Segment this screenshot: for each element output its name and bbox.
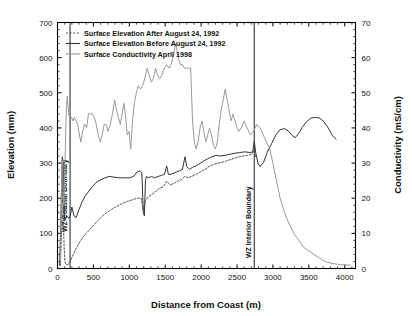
y-tick-label: 300 (39, 159, 53, 168)
y-tick-label: 0 (48, 265, 53, 274)
y-tick-label: 400 (39, 124, 53, 133)
y-tick-label: 500 (39, 89, 53, 98)
y-axis-left-title: Elevation (mm) (5, 111, 16, 179)
x-tick-label: 500 (87, 273, 101, 282)
y2-tick-label: 40 (362, 124, 371, 133)
y-axis-right-title: Conductivity (mS/cm) (392, 96, 403, 194)
x-tick-label: 4000 (336, 273, 354, 282)
x-tick-label: 1000 (120, 273, 138, 282)
y-tick-label: 200 (39, 194, 53, 203)
x-axis-title: Distance from Coast (m) (151, 299, 261, 310)
boundary-line-label: WZ Interior Boundary (245, 186, 253, 258)
chart-canvas: 05001000150020002500300035004000 0100200… (0, 0, 412, 316)
x-tick-label: 0 (55, 273, 60, 282)
x-tick-label: 3500 (300, 273, 318, 282)
y-tick-label: 700 (39, 19, 53, 28)
y-tick-label: 100 (39, 229, 53, 238)
chart-figure: 05001000150020002500300035004000 0100200… (0, 0, 412, 316)
y2-tick-label: 10 (362, 229, 371, 238)
x-tick-label: 1500 (156, 273, 174, 282)
x-tick-label: 3000 (264, 273, 282, 282)
y2-tick-label: 20 (362, 194, 371, 203)
y2-tick-label: 0 (362, 265, 367, 274)
legend-label: Surface Conductivity April 1998 (84, 50, 192, 59)
x-tick-label: 2000 (192, 273, 210, 282)
x-tick-label: 2500 (228, 273, 246, 282)
legend-label: Surface Elevation Before August 24, 1992 (84, 39, 226, 48)
legend-label: Surface Elevation After August 24, 1992 (84, 29, 219, 38)
y2-tick-label: 50 (362, 89, 371, 98)
y2-tick-label: 70 (362, 19, 371, 28)
y2-tick-label: 30 (362, 159, 371, 168)
y-tick-label: 600 (39, 54, 53, 63)
y2-tick-label: 60 (362, 54, 371, 63)
